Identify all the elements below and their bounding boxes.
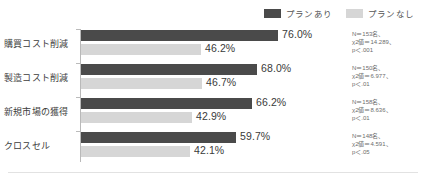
stat-chi: χ2値＝6.977、 [352,72,392,80]
bar-value-plan-without: 46.7% [206,76,236,88]
stat-p: p＜.01 [352,114,392,122]
category-label: 購買コスト削減 [4,37,76,50]
bar-value-plan-with: 76.0% [282,28,312,40]
axis-tick [76,29,80,30]
stat-annotation: N＝150名、 χ2値＝6.977、 p＜.01 [352,64,392,89]
bar-plan-with [81,132,236,143]
bar-group: 製造コスト削減 68.0% 46.7% N＝150名、 χ2値＝6.977、 p… [0,62,426,96]
category-label: クロスセル [4,139,76,152]
bar-value-plan-without: 46.2% [205,42,235,54]
category-label: 新規市場の獲得 [4,105,76,118]
stat-annotation: N＝148名、 χ2値＝4.591、 p＜.05 [352,132,392,157]
legend-swatch-plan-without [346,9,363,18]
stat-n: N＝153名、 [352,30,395,38]
axis-tick [76,63,80,64]
stat-annotation: N＝158名、 χ2値＝8.636、 p＜.01 [352,98,392,123]
stat-n: N＝158名、 [352,98,392,106]
bar-chart: プランあり プランなし 購買コスト削減 76.0% 46.2% N＝153名、 … [0,0,426,180]
bar-group: クロスセル 59.7% 42.1% N＝148名、 χ2値＝4.591、 p＜.… [0,130,426,164]
legend-swatch-plan-with [264,9,281,18]
bar-plan-with [81,98,252,109]
chart-legend: プランあり プランなし [264,7,414,19]
plot-area: 購買コスト削減 76.0% 46.2% N＝153名、 χ2値＝14.289、 … [0,26,426,166]
bar-value-plan-without: 42.1% [194,144,224,156]
axis-tick [76,97,80,98]
bar-value-plan-without: 42.9% [196,110,226,122]
stat-p: p＜.01 [352,80,392,88]
bar-plan-without [81,78,202,89]
bar-value-plan-with: 66.2% [256,96,286,108]
stat-chi: χ2値＝8.636、 [352,106,392,114]
stat-p: p＜.05 [352,148,392,156]
legend-label-plan-without: プランなし [368,7,414,19]
bar-plan-with [81,64,257,75]
legend-item-plan-without: プランなし [346,7,414,19]
stat-n: N＝148名、 [352,132,392,140]
stat-annotation: N＝153名、 χ2値＝14.289、 p＜.001 [352,30,395,55]
axis-tick [76,131,80,132]
bar-value-plan-with: 68.0% [261,62,291,74]
stat-n: N＝150名、 [352,64,392,72]
stat-p: p＜.001 [352,46,395,54]
bar-value-plan-with: 59.7% [240,130,270,142]
bar-group: 新規市場の獲得 66.2% 42.9% N＝158名、 χ2値＝8.636、 p… [0,96,426,130]
bar-group: 購買コスト削減 76.0% 46.2% N＝153名、 χ2値＝14.289、 … [0,28,426,62]
bar-plan-without [81,44,201,55]
bar-plan-without [81,146,190,157]
stat-chi: χ2値＝14.289、 [352,38,395,46]
bar-plan-with [81,30,278,41]
legend-item-plan-with: プランあり [264,7,332,19]
legend-label-plan-with: プランあり [286,7,332,19]
footer-divider [8,172,418,173]
stat-chi: χ2値＝4.591、 [352,140,392,148]
category-label: 製造コスト削減 [4,71,76,84]
bar-plan-without [81,112,192,123]
